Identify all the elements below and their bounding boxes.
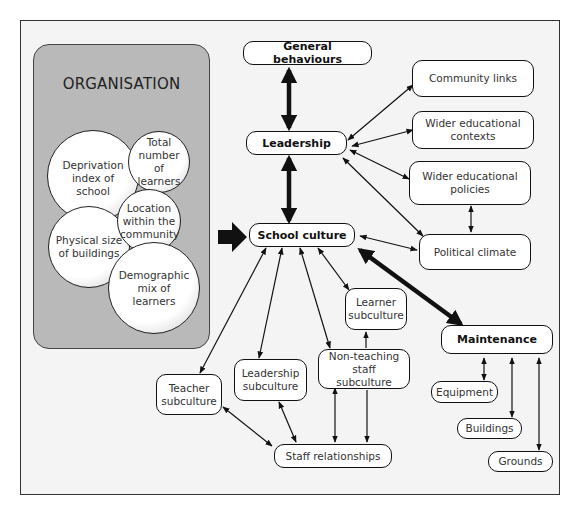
bubble-total-learners: Total number of learners (128, 131, 190, 193)
node-wider-educational-policies: Wider educational policies (409, 161, 531, 205)
node-leadership: Leadership (246, 131, 347, 155)
node-teacher-subculture: Teacher subculture (156, 374, 222, 415)
node-leadership-subculture: Leadership subculture (234, 359, 307, 401)
node-equipment: Equipment (431, 381, 498, 403)
node-grounds: Grounds (488, 451, 553, 472)
node-staff-relationships: Staff relationships (274, 444, 392, 468)
node-learner-subculture: Learner subculture (345, 288, 407, 330)
node-buildings: Buildings (457, 418, 522, 439)
node-wider-educational-contexts: Wider educational contexts (412, 111, 534, 149)
node-general-behaviours: General behaviours (243, 41, 372, 65)
bubble-demographic-mix: Demographic mix of learners (108, 242, 200, 334)
node-maintenance: Maintenance (441, 325, 553, 354)
node-political-climate: Political climate (419, 234, 531, 270)
organisation-title: ORGANISATION (34, 75, 209, 93)
node-school-culture: School culture (249, 223, 355, 247)
node-community-links: Community links (412, 60, 534, 97)
node-non-teaching-staff-subculture: Non-teaching staff subculture (318, 349, 410, 389)
